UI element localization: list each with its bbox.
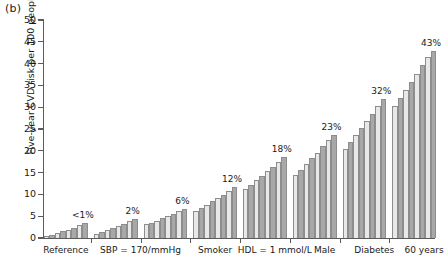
group-annotation-label: <1% — [72, 210, 94, 220]
y-axis-tick-label: 30 — [2, 101, 36, 112]
x-axis-category-label: Male — [314, 245, 335, 255]
group-annotation-label: 2% — [125, 206, 139, 216]
y-axis-tick-label: 50 — [2, 14, 36, 25]
x-axis-group-separator — [91, 238, 92, 243]
bar — [431, 51, 436, 238]
group-annotation-label: 23% — [322, 122, 342, 132]
y-axis-tick-label: 20 — [2, 145, 36, 156]
y-axis-tick-label: 45 — [2, 36, 36, 47]
y-axis-tick-label: 10 — [2, 188, 36, 199]
y-axis-tick-label: 25 — [2, 123, 36, 134]
y-axis-tick-label: 0 — [2, 232, 36, 243]
bar — [281, 157, 286, 238]
bar — [132, 219, 137, 238]
x-axis-group-separator — [340, 238, 341, 243]
x-axis-group-separator — [240, 238, 241, 243]
x-axis-category-label: Reference — [43, 245, 88, 255]
y-axis-tick-label: 15 — [2, 167, 36, 178]
x-axis-category-label: Smoker — [198, 245, 232, 255]
y-axis-tick-label: 35 — [2, 79, 36, 90]
x-axis-group-separator — [190, 238, 191, 243]
bar — [232, 187, 237, 238]
x-axis-category-label: HDL = 1 mmol/L — [238, 245, 312, 255]
group-annotation-label: 6% — [175, 196, 189, 206]
group-annotation-label: 32% — [371, 86, 391, 96]
bar — [182, 209, 187, 238]
y-axis-tick-labels: 05101520253035404550 — [0, 0, 36, 261]
bar — [82, 223, 87, 238]
x-axis-group-separator — [389, 238, 390, 243]
x-axis-category-label: Diabetes — [354, 245, 394, 255]
bar — [381, 99, 386, 238]
bar — [331, 135, 336, 238]
x-axis-category-label: 60 years — [405, 245, 444, 255]
x-axis-group-separator — [290, 238, 291, 243]
group-annotation-label: 18% — [272, 144, 292, 154]
x-axis-group-separator — [141, 238, 142, 243]
bar-groups — [44, 20, 436, 238]
group-annotation-label: 12% — [222, 174, 242, 184]
group-annotation-label: 43% — [421, 38, 441, 48]
y-axis-tick-label: 40 — [2, 58, 36, 69]
x-axis-category-label: SBP = 170/mmHg — [100, 245, 181, 255]
y-axis-tick-label: 5 — [2, 210, 36, 221]
